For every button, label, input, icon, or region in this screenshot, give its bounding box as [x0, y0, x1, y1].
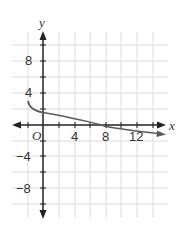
x-tick-label-4: 4	[71, 129, 78, 144]
coordinate-plane: y x O 4 8 12 8 4 −4 −8	[0, 0, 183, 234]
x-axis-label: x	[168, 118, 175, 133]
origin-label: O	[32, 128, 42, 143]
x-axis-arrow-left-icon	[12, 122, 21, 129]
y-axis-label: y	[37, 15, 45, 30]
y-tick-label-4: 4	[25, 85, 32, 100]
y-tick-label-neg4: −4	[16, 149, 31, 164]
y-axis-arrow-up-icon	[40, 31, 47, 40]
y-tick-label-8: 8	[25, 53, 32, 68]
y-tick-label-neg8: −8	[16, 181, 31, 196]
curve-arrow-icon	[157, 131, 167, 138]
x-tick-label-8: 8	[102, 129, 109, 144]
y-axis-arrow-down-icon	[40, 210, 47, 219]
x-tick-label-12: 12	[129, 129, 143, 144]
x-axis-arrow-right-icon	[157, 122, 166, 129]
